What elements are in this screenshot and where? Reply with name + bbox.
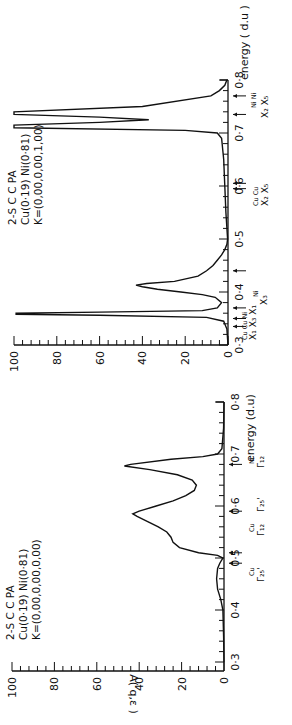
svg-text:X₂ X₅: X₂ X₅ [260,95,270,118]
svg-text:Cu(0·19) Ni(0·81): Cu(0·19) Ni(0·81) [19,134,31,225]
arrowhead-icon [233,306,237,310]
svg-text:K=(0,00,0,00,1,00): K=(0,00,0,00,1,00) [32,124,44,225]
bottom-amplitude-ticks [12,662,224,671]
bottom-amplitude-tick-labels: 100806040200 [6,677,231,698]
energy-tick-label: 0·5 [233,230,246,248]
energy-tick-label: 0·4 [233,283,246,301]
bottom-spectral-curve [124,402,224,662]
amplitude-tick-label: 80 [51,351,64,365]
top-amplitude-tick-labels: 100806040200 [8,351,235,372]
amplitude-tick-label: 40 [136,351,149,365]
top-panel: 100806040200 0·30·40·50·60·70·8 energy (… [6,5,270,372]
svg-text:X₁ X₃ X₁: X₁ X₃ X₁ [248,305,258,340]
amplitude-tick-label: 20 [179,351,192,365]
amplitude-tick-label: 100 [8,351,21,372]
svg-text:K=(0,00,0,00,0,00): K=(0,00,0,00,0,00) [30,539,42,640]
svg-text:Cu(0·19) Ni(0·81): Cu(0·19) Ni(0·81) [17,549,29,640]
svg-text:2-S C C PA: 2-S C C PA [6,170,18,225]
bottom-energy-tick-labels: 0·30·40·50·60·70·8 [229,393,242,671]
svg-text:Γ₁₂: Γ₁₂ [256,523,266,536]
arrowhead-icon [233,317,237,321]
top-spectral-curve [14,80,228,345]
energy-tick-label: 0·7 [229,445,242,463]
amplitude-tick-label: 80 [48,677,61,691]
top-energy-label: energy ( d.u ) [238,5,251,80]
svg-text:Ni Ni: Ni Ni [250,92,258,108]
svg-text:X₃: X₃ [259,295,269,305]
arrowhead-icon [233,324,237,328]
top-amplitude-ticks [14,336,228,345]
amplitude-tick-label: 20 [176,677,189,691]
energy-tick-label: 0·8 [229,393,242,411]
amplitude-tick-label: 100 [6,677,19,698]
bottom-energy-label: energy (d.u) [244,394,257,462]
bottom-panel: 100806040200 0·30·40·50·60·70·8 energy (… [4,393,266,714]
svg-text:Γ₁₂: Γ₁₂ [256,455,266,468]
energy-tick-label: 0·4 [229,601,242,619]
bottom-marker-labels: Γ₂₅' Cu Γ₁₂ Cu Γ₂₅' Γ₁₂ Ni [248,455,266,582]
arrowhead-icon [233,112,237,116]
energy-tick-label: 0·3 [229,653,242,671]
energy-tick-label: 0·7 [233,124,246,142]
top-title: 2-S C C PA Cu(0·19) Ni(0·81) K=(0,00,0,0… [6,124,44,225]
energy-tick-label: 0·6 [233,177,246,195]
svg-text:Cu Cu: Cu Cu [252,187,260,206]
bottom-amplitude-label: A( q,ε ) [127,674,140,714]
svg-text:Ni: Ni [248,457,256,464]
arrowhead-icon [233,94,237,98]
svg-text:Γ₂₅': Γ₂₅' [256,497,266,512]
svg-text:2-S C C PA: 2-S C C PA [4,585,16,640]
amplitude-tick-label: 0 [218,677,231,684]
svg-text:X₂ X₅: X₂ X₅ [260,183,270,206]
svg-text:Cu: Cu [248,567,256,576]
svg-text:Ni: Ni [252,290,260,297]
amplitude-tick-label: 60 [94,351,107,365]
bottom-title: 2-S C C PA Cu(0·19) Ni(0·81) K=(0,00,0,0… [4,539,42,640]
arrowhead-icon [233,269,237,273]
amplitude-tick-label: 60 [91,677,104,691]
spectral-function-figure: 100806040200 0·30·40·50·60·70·8 energy (… [0,0,292,725]
svg-text:Cu: Cu [248,523,256,532]
svg-text:Cu Cu Ni: Cu Cu Ni [241,312,249,340]
energy-tick-label: 0·6 [229,497,242,515]
energy-tick-label: 0·5 [229,549,242,567]
svg-text:Γ₂₅': Γ₂₅' [256,567,266,582]
